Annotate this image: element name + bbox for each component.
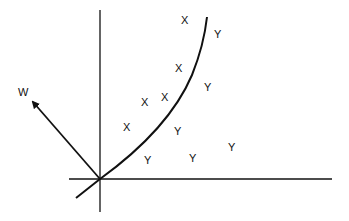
point-x: X	[161, 91, 169, 103]
point-y: Y	[189, 152, 197, 164]
w-vector-label: W	[18, 86, 29, 98]
point-x: X	[181, 14, 189, 26]
point-y: Y	[228, 141, 236, 153]
point-x: X	[141, 96, 149, 108]
diagram-svg: W X X X X X Y Y Y Y Y Y	[0, 0, 349, 221]
point-y: Y	[204, 81, 212, 93]
point-y: Y	[144, 154, 152, 166]
point-x: X	[175, 62, 183, 74]
point-x: X	[123, 121, 131, 133]
point-y: Y	[214, 28, 222, 40]
point-y: Y	[174, 125, 182, 137]
diagram-canvas: W X X X X X Y Y Y Y Y Y	[0, 0, 349, 221]
scatter-points: X X X X X Y Y Y Y Y Y	[123, 14, 236, 166]
w-vector-arrow	[33, 102, 100, 179]
